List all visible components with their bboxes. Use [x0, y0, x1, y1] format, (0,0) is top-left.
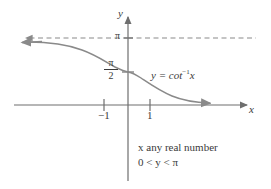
- pi-over-2-label: π 2: [104, 58, 118, 81]
- note-domain: x any real number: [138, 140, 218, 155]
- note-range: 0 < y < π: [138, 155, 218, 170]
- pi-over-2-denominator: 2: [104, 70, 118, 81]
- curve-equation-label: y = cot−1x: [151, 69, 195, 81]
- note-block: x any real number 0 < y < π: [138, 140, 218, 170]
- curve-label-suffix: x: [190, 69, 195, 81]
- curve-label-prefix: y = cot: [151, 69, 182, 81]
- pi-value-label: π: [115, 31, 120, 41]
- curve-left-arrow: [22, 42, 42, 43]
- curve-label-exponent: −1: [182, 68, 189, 76]
- pi-over-2-numerator: π: [104, 58, 118, 68]
- figure-canvas: y x π π 2 −1 1 y = cot−1x x any real num…: [0, 0, 271, 189]
- y-axis-label: y: [118, 8, 123, 19]
- x-axis-label: x: [249, 104, 254, 115]
- x-tick-label-neg1: −1: [98, 110, 110, 121]
- graph-svg: [0, 0, 271, 189]
- x-tick-label-1: 1: [147, 110, 153, 121]
